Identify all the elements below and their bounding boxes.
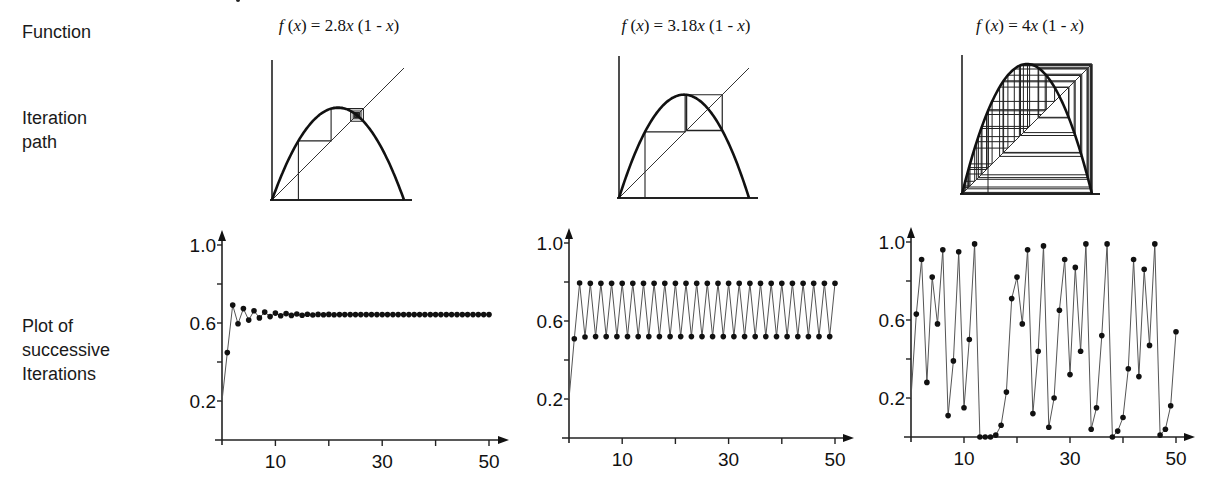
- data-point: [967, 337, 973, 343]
- data-point: [326, 312, 332, 318]
- data-point: [641, 280, 647, 286]
- data-point: [619, 280, 625, 286]
- data-point: [598, 280, 604, 286]
- x-axis-arrow-icon: [1184, 433, 1195, 441]
- data-point: [315, 312, 321, 318]
- y-tick-label: 0.6: [879, 310, 905, 331]
- data-point: [1147, 343, 1153, 349]
- cobweb-diagram-1: [270, 60, 412, 201]
- data-point: [779, 280, 785, 286]
- data-point: [945, 413, 951, 419]
- successive-iteration-plots: 0.20.61.01030500.20.61.01030500.20.61.01…: [190, 227, 1195, 472]
- data-point: [273, 310, 279, 316]
- data-point: [449, 312, 455, 318]
- data-point: [972, 241, 978, 247]
- data-point: [662, 280, 668, 286]
- y-tick-label: 0.2: [537, 389, 563, 410]
- data-point: [977, 434, 983, 440]
- x-tick-label: 30: [372, 451, 393, 472]
- data-point: [1168, 403, 1174, 409]
- data-point: [1051, 395, 1057, 401]
- data-point: [710, 334, 716, 340]
- x-tick-label: 50: [1165, 448, 1186, 469]
- data-point: [411, 312, 417, 318]
- y-tick-label: 0.6: [190, 313, 216, 334]
- function-curve: [619, 95, 749, 198]
- data-point: [774, 334, 780, 340]
- data-point: [486, 312, 492, 318]
- data-point: [374, 312, 380, 318]
- data-point: [699, 334, 705, 340]
- data-point: [614, 334, 620, 340]
- data-point: [1046, 425, 1052, 431]
- x-tick-label: 50: [824, 449, 845, 470]
- data-point: [651, 280, 657, 286]
- data-point: [1157, 432, 1163, 438]
- data-point: [1025, 247, 1031, 253]
- data-point: [1067, 372, 1073, 378]
- x-axis-arrow-icon: [843, 434, 854, 442]
- y-tick-label: 1.0: [537, 233, 563, 254]
- data-point: [689, 334, 695, 340]
- data-point: [1094, 405, 1100, 411]
- data-point: [940, 247, 946, 253]
- iteration-path-diagrams: [270, 55, 1100, 201]
- data-point: [988, 434, 994, 440]
- data-point: [982, 434, 988, 440]
- data-point: [657, 334, 663, 340]
- iteration-plot-1: 0.20.61.0103050: [190, 230, 509, 472]
- data-point: [832, 280, 838, 286]
- data-point: [1131, 257, 1137, 263]
- data-point: [347, 312, 353, 318]
- y-tick-label: 1.0: [879, 232, 905, 253]
- data-point: [577, 280, 583, 286]
- data-point: [811, 280, 817, 286]
- data-point: [444, 312, 450, 318]
- data-point: [993, 432, 999, 438]
- data-point: [262, 309, 268, 315]
- data-point: [800, 280, 806, 286]
- data-point: [460, 312, 466, 318]
- data-point: [635, 334, 641, 340]
- data-point: [646, 334, 652, 340]
- data-point: [294, 311, 300, 317]
- data-point: [572, 336, 578, 342]
- data-point: [919, 257, 925, 263]
- data-point: [721, 334, 727, 340]
- data-point: [267, 314, 273, 320]
- data-point: [481, 312, 487, 318]
- data-point: [736, 280, 742, 286]
- data-point: [683, 280, 689, 286]
- data-point: [768, 280, 774, 286]
- cobweb-path: [298, 109, 363, 200]
- data-point: [924, 380, 930, 386]
- data-point: [406, 312, 412, 318]
- data-point: [609, 280, 615, 286]
- data-point: [929, 274, 935, 280]
- data-point: [582, 334, 588, 340]
- data-point: [1014, 274, 1020, 280]
- data-point: [310, 312, 316, 318]
- y-tick-label: 0.2: [190, 391, 216, 412]
- x-tick-label: 10: [953, 448, 974, 469]
- data-point: [790, 280, 796, 286]
- data-point: [1004, 389, 1010, 395]
- data-point: [1030, 411, 1036, 417]
- series-line: [569, 283, 835, 399]
- identity-line: [619, 68, 749, 198]
- y-axis-arrow-icon: [907, 227, 915, 238]
- data-point: [914, 311, 920, 317]
- data-point: [961, 405, 967, 411]
- data-point: [1136, 374, 1142, 380]
- data-point: [816, 334, 822, 340]
- data-point: [289, 313, 295, 319]
- data-point: [385, 312, 391, 318]
- x-tick-label: 50: [478, 451, 499, 472]
- data-point: [1120, 415, 1126, 421]
- figure-canvas: 0.20.61.01030500.20.61.01030500.20.61.01…: [0, 0, 1208, 494]
- data-point: [588, 280, 594, 286]
- data-point: [630, 280, 636, 286]
- data-point: [246, 317, 252, 323]
- data-point: [694, 280, 700, 286]
- data-point: [417, 312, 423, 318]
